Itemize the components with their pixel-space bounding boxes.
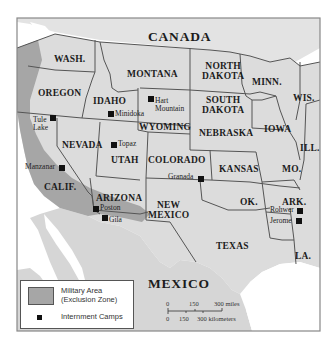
state-label-line: MEXICO	[148, 210, 189, 220]
state-label-line: DAKOTA	[202, 105, 244, 115]
state-label-montana: MONTANA	[127, 69, 178, 79]
camp-label-tule-lake: Tule Lake	[33, 116, 48, 132]
state-label-arizona: ARIZONA	[96, 193, 142, 203]
camp-label-gila: Gila	[109, 216, 122, 224]
camp-marker-legend-icon	[37, 315, 42, 320]
legend-military-area-label: Military Area (Exclusion Zone)	[61, 287, 117, 304]
camp-marker-hart-mountain	[148, 96, 154, 102]
state-label-line: DAKOTA	[202, 71, 244, 81]
legend-line: (Exclusion Zone)	[61, 296, 117, 305]
scale-miles-300: 300 miles	[214, 300, 239, 307]
state-label-new-mexico: NEW MEXICO	[148, 200, 189, 220]
state-label-nevada: NEVADA	[62, 140, 103, 150]
state-label-idaho: IDAHO	[93, 96, 126, 106]
camp-label-poston: Poston	[100, 204, 120, 212]
state-label-nebraska: NEBRASKA	[199, 128, 253, 138]
legend-camps-label: Internment Camps	[61, 313, 123, 322]
state-label-minn: MINN.	[252, 77, 282, 87]
camp-label-line: Mountain	[155, 105, 184, 113]
state-label-ill: ILL.	[300, 143, 320, 153]
state-label-north-dakota: NORTH DAKOTA	[202, 61, 244, 81]
camp-label-line: Lake	[33, 124, 48, 132]
state-label-line: NORTH	[202, 61, 244, 71]
state-label-south-dakota: SOUTH DAKOTA	[202, 95, 244, 115]
state-label-oregon: OREGON	[38, 88, 81, 98]
camp-label-jerome: Jerome	[270, 217, 292, 225]
state-label-la: LA.	[295, 251, 311, 261]
camp-label-granada: Granada	[168, 173, 193, 181]
state-label-ok: OK.	[240, 197, 258, 207]
state-label-colorado: COLORADO	[148, 155, 206, 165]
state-label-kansas: KANSAS	[219, 164, 259, 174]
camp-marker-manzanar	[59, 165, 65, 171]
camp-marker-tule-lake	[50, 115, 56, 121]
state-label-iowa: IOWA	[264, 124, 291, 134]
state-label-line: SOUTH	[202, 95, 244, 105]
state-label-utah: UTAH	[111, 155, 139, 165]
camp-label-topaz: Topaz	[118, 140, 136, 148]
map-legend: Military Area (Exclusion Zone) Internmen…	[20, 280, 134, 329]
exclusion-zone-swatch	[28, 287, 54, 305]
camp-label-manzanar: Manzanar	[25, 163, 55, 171]
camp-marker-jerome	[296, 218, 302, 224]
camp-marker-granada	[198, 176, 204, 182]
state-label-mo: MO.	[282, 164, 301, 174]
state-label-wash: WASH.	[54, 54, 85, 64]
state-label-wyoming: WYOMING	[139, 122, 191, 132]
scale-km-150: 150	[179, 315, 189, 322]
camp-label-hart-mountain: Hart Mountain	[155, 97, 184, 113]
scale-miles-0: 0	[166, 300, 169, 307]
camp-marker-rohwer	[297, 208, 303, 214]
camp-label-rohwer: Rohwer	[270, 206, 294, 214]
scale-km-300: 300 kilometers	[197, 315, 236, 322]
country-label-canada: CANADA	[148, 30, 211, 44]
scale-miles-150: 150	[189, 300, 199, 307]
state-label-texas: TEXAS	[216, 241, 249, 251]
camp-marker-topaz	[111, 142, 117, 148]
camp-marker-poston	[93, 206, 99, 212]
camp-marker-gila	[102, 215, 108, 221]
state-label-wis: WIS.	[293, 93, 315, 103]
state-label-line: NEW	[148, 200, 189, 210]
state-label-calif: CALIF.	[44, 182, 76, 192]
camp-label-minidoka: Minidoka	[115, 110, 144, 118]
country-label-mexico: MEXICO	[148, 277, 210, 291]
scale-km-0: 0	[166, 315, 169, 322]
camp-marker-minidoka	[108, 111, 114, 117]
